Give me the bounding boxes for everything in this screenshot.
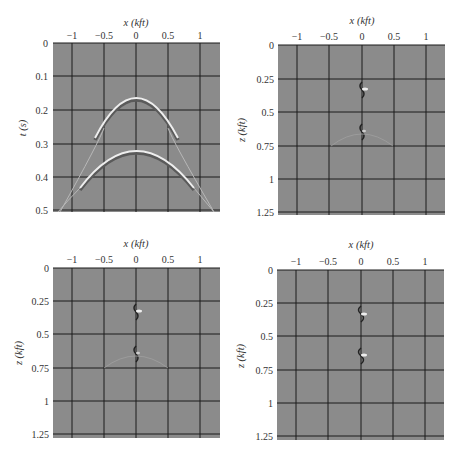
y-tick-label: 1 — [44, 396, 49, 407]
x-tick-label: −1 — [67, 254, 78, 265]
x-tick-label: 0.5 — [388, 31, 401, 42]
y-axis-title: z (kft) — [13, 340, 25, 366]
panel-depth-migration-1: −1 −0.5 0 0.5 1 x (kft) 0 0.25 0.5 0.75 … — [231, 0, 463, 228]
y-axis-title: z (kft) — [235, 343, 247, 369]
x-tick-label: 0 — [134, 254, 139, 265]
x-tick-label: 0 — [359, 256, 364, 267]
y-tick-label: 0.4 — [36, 172, 49, 183]
y-tick-label: 0.2 — [36, 105, 49, 116]
y-tick-label: 0.25 — [256, 298, 274, 309]
y-tick-label: 0.5 — [261, 331, 274, 342]
y-tick-label: 1 — [269, 174, 274, 185]
plot-depth-migration-3: −1 −0.5 0 0.5 1 x (kft) 0 0.25 0.5 0.75 … — [231, 228, 463, 456]
y-tick-label: 1.25 — [256, 431, 274, 442]
x-tick-label: −0.5 — [95, 254, 113, 265]
y-tick-label: 0.1 — [36, 71, 49, 82]
x-axis-title: x (kft) — [348, 239, 374, 251]
x-tick-label: 0.5 — [162, 30, 175, 41]
x-tick-label: 1 — [198, 254, 203, 265]
y-tick-label: 0.5 — [36, 205, 49, 216]
y-axis-title: t (s) — [17, 119, 29, 136]
y-tick-label: 0.5 — [262, 107, 275, 118]
x-tick-label: −0.5 — [320, 31, 338, 42]
y-tick-label: 0.75 — [32, 363, 50, 374]
y-tick-label: 0.3 — [36, 139, 49, 150]
x-tick-label: −1 — [291, 256, 302, 267]
panel-depth-migration-3: −1 −0.5 0 0.5 1 x (kft) 0 0.25 0.5 0.75 … — [231, 228, 463, 456]
y-tick-label: 0 — [268, 265, 273, 276]
y-tick-label: 0 — [44, 263, 49, 274]
y-axis-title: z (kft) — [236, 117, 248, 143]
x-axis-title: x (kft) — [123, 17, 149, 29]
panel-depth-migration-2: −1 −0.5 0 0.5 1 x (kft) 0 0.25 0.5 0.75 … — [0, 228, 232, 456]
x-tick-label: 1 — [424, 31, 429, 42]
y-tick-label: 0.75 — [257, 141, 275, 152]
plot-depth-migration-1: −1 −0.5 0 0.5 1 x (kft) 0 0.25 0.5 0.75 … — [231, 0, 463, 228]
x-tick-label: 1 — [423, 256, 428, 267]
x-tick-label: 0.5 — [387, 256, 400, 267]
x-tick-label: −0.5 — [95, 30, 113, 41]
y-tick-label: 0.75 — [256, 365, 274, 376]
x-tick-label: −0.5 — [319, 256, 337, 267]
y-tick-label: 0.25 — [257, 74, 275, 85]
x-axis-title: x (kft) — [349, 15, 375, 27]
y-tick-label: 1.25 — [257, 207, 275, 218]
x-tick-label: 0 — [360, 31, 365, 42]
y-tick-label: 0 — [269, 40, 274, 51]
x-axis-title: x (kft) — [123, 238, 149, 250]
x-tick-label: 0.5 — [162, 254, 175, 265]
y-tick-label: 1.25 — [32, 429, 50, 440]
panel-time-section: −1 −0.5 0 0.5 1 x (kft) 0 0.1 0.2 0.3 0.… — [0, 0, 232, 228]
plot-depth-migration-2: −1 −0.5 0 0.5 1 x (kft) 0 0.25 0.5 0.75 … — [0, 228, 232, 456]
y-tick-label: 1 — [268, 398, 273, 409]
y-tick-label: 0.25 — [32, 296, 50, 307]
plot-time-section: −1 −0.5 0 0.5 1 x (kft) 0 0.1 0.2 0.3 0.… — [0, 0, 232, 228]
x-tick-label: 1 — [198, 30, 203, 41]
y-tick-label: 0 — [43, 38, 48, 49]
x-tick-label: 0 — [134, 30, 139, 41]
y-tick-label: 0.5 — [37, 329, 50, 340]
x-tick-label: −1 — [67, 30, 78, 41]
x-tick-label: −1 — [292, 31, 303, 42]
